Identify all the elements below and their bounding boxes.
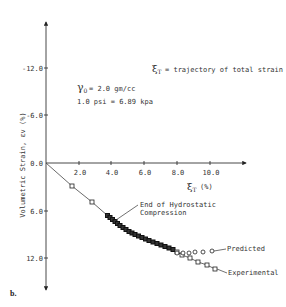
svg-text:ξT: ξT — [187, 181, 197, 193]
y-tick-label: 12.0 — [26, 255, 43, 263]
svg-text:= trajectory of total strain: = trajectory of total strain — [165, 66, 283, 74]
predicted-label: Predicted — [227, 245, 265, 253]
experimental-dense-points — [106, 214, 176, 252]
y-tick-label: 6.0 — [30, 208, 43, 216]
svg-text:= 2.0 gm/cc: = 2.0 gm/cc — [89, 85, 135, 93]
hydrostatic-label: End of Hydrostatic — [140, 201, 216, 209]
panel-label: b. — [10, 289, 16, 298]
x-tick-label: 10.0 — [203, 169, 220, 177]
experimental-label: Experimental — [228, 269, 279, 277]
experimental-points — [70, 184, 217, 271]
predicted-leader — [214, 249, 226, 251]
hydrostatic-label-2: Compression — [140, 209, 186, 217]
conversion-annotation: 1.0 psi = 6.89 kpa — [77, 98, 153, 106]
volumetric-strain-chart: -12.0 -6.0 0.0 6.0 12.0 2.0 4.0 6.0 8.0 … — [0, 0, 286, 307]
legend-title: ξT = trajectory of total strain — [152, 63, 283, 75]
y-tick-label: 0.0 — [30, 160, 43, 168]
x-tick-label: 2.0 — [74, 169, 87, 177]
svg-text:γ0: γ0 — [77, 81, 88, 94]
hydrostatic-leader — [116, 205, 138, 220]
x-tick-label: 6.0 — [139, 169, 152, 177]
y-tick-label: -6.0 — [26, 112, 43, 120]
x-axis-label: ξT (%) — [187, 181, 213, 193]
y-tick-label: -12.0 — [22, 65, 43, 73]
density-annotation: γ0 = 2.0 gm/cc — [77, 81, 135, 94]
x-tick-label: 4.0 — [106, 169, 119, 177]
svg-text:(%): (%) — [200, 183, 213, 191]
experimental-leader — [217, 269, 227, 273]
y-axis-label: Volumetric Strain, εv (%) — [19, 112, 27, 217]
x-tick-label: 8.0 — [172, 169, 185, 177]
svg-text:ξT: ξT — [152, 63, 162, 75]
